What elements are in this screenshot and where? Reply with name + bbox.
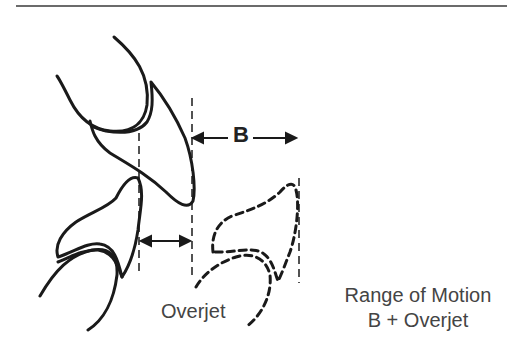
range-of-motion-title: Range of Motion bbox=[318, 283, 518, 308]
overjet-arrow-right-head bbox=[180, 236, 190, 246]
upper-jaw-outer-contour bbox=[57, 37, 147, 131]
lower-jaw-outer-contour bbox=[40, 249, 117, 330]
overjet-label: Overjet bbox=[161, 300, 225, 323]
b-arrow-right-head bbox=[286, 133, 296, 143]
overjet-arrow-left-head bbox=[141, 236, 151, 246]
b-distance-label: B bbox=[233, 122, 249, 148]
range-of-motion-formula: B + Overjet bbox=[318, 308, 518, 333]
lower-incisor-outline bbox=[57, 178, 142, 277]
b-arrow-left-head bbox=[193, 133, 203, 143]
protruded-lower-incisor-outline bbox=[213, 184, 298, 281]
range-of-motion-label: Range of Motion B + Overjet bbox=[318, 283, 518, 333]
